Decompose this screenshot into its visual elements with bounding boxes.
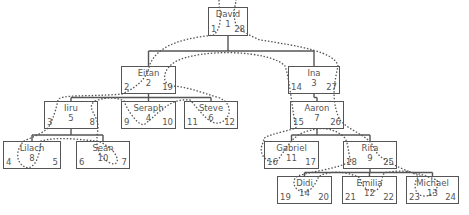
tree-diagram: David1128Eitan2219Ina31427Iiru538Seraph4… — [0, 0, 469, 215]
euler-tour-path — [0, 0, 469, 215]
